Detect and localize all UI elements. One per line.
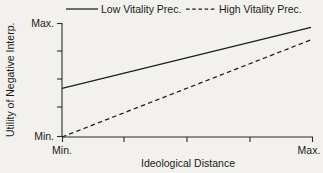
- chart-figure: Low Vitality Prec. High Vitality Prec. U…: [0, 0, 323, 173]
- y-axis: Max. Min.: [31, 17, 62, 142]
- y-axis-label-max: Max.: [31, 17, 54, 29]
- legend-label-low-vitality: Low Vitality Prec.: [101, 3, 181, 15]
- chart-series-group: [62, 27, 311, 137]
- series-line-high-vitality: [62, 40, 311, 137]
- chart-legend: Low Vitality Prec. High Vitality Prec.: [66, 3, 302, 15]
- x-axis-title: Ideological Distance: [141, 157, 235, 169]
- y-axis-label-min: Min.: [34, 130, 54, 142]
- x-axis-label-min: Min.: [52, 144, 72, 156]
- series-line-low-vitality: [62, 27, 311, 88]
- line-chart: Low Vitality Prec. High Vitality Prec. U…: [0, 0, 323, 173]
- y-axis-title: Utility of Negative Interp.: [4, 23, 16, 137]
- legend-label-high-vitality: High Vitality Prec.: [219, 3, 302, 15]
- x-axis-label-max: Max.: [298, 144, 321, 156]
- x-axis: Min. Max. Ideological Distance: [52, 137, 320, 169]
